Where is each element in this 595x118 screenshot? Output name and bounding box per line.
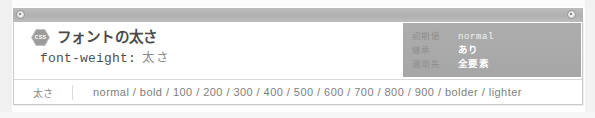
page-margin-bottom: [0, 112, 595, 118]
meta-panel: 初期値 normal 継承 あり 適用先 全要素: [403, 23, 581, 77]
meta-value-initial-value: normal: [458, 30, 494, 44]
values-list: normal / bold / 100 / 200 / 300 / 400 / …: [73, 86, 522, 98]
meta-label-inherited: 継承: [412, 43, 458, 57]
page-title: フォントの太さ: [57, 30, 158, 45]
property-name: font-weight:: [40, 52, 136, 65]
meta-value-inherited: あり: [458, 43, 479, 57]
title-row: CSS フォントの太さ: [31, 29, 158, 46]
card-upper-section: CSS フォントの太さ font-weight: 太さ 初期値 normal 継…: [14, 22, 582, 79]
page-margin-right: [585, 0, 595, 118]
page-margin-left: [0, 0, 12, 118]
meta-row: 適用先 全要素: [412, 57, 581, 71]
card-header-band: [13, 8, 583, 22]
syntax-row: font-weight: 太さ: [40, 52, 169, 65]
meta-label-applies-to: 適用先: [412, 57, 458, 71]
property-reference-card: CSS フォントの太さ font-weight: 太さ 初期値 normal 継…: [13, 22, 583, 105]
circle-marker-icon-left: [16, 10, 25, 19]
meta-value-applies-to: 全要素: [458, 57, 489, 71]
page-canvas: CSS フォントの太さ font-weight: 太さ 初期値 normal 継…: [0, 0, 595, 118]
meta-row: 継承 あり: [412, 43, 581, 57]
values-row-label: 太さ: [14, 85, 72, 100]
meta-label-initial-value: 初期値: [412, 29, 458, 43]
hexagon-badge-icon: CSS: [31, 29, 50, 46]
property-value-placeholder: 太さ: [142, 52, 169, 65]
meta-row: 初期値 normal: [412, 29, 581, 43]
hexagon-badge-label: CSS: [31, 29, 50, 46]
page-margin-top: [0, 0, 595, 7]
card-values-section: 太さ normal / bold / 100 / 200 / 300 / 400…: [14, 80, 582, 104]
circle-marker-icon-right: [567, 10, 576, 19]
